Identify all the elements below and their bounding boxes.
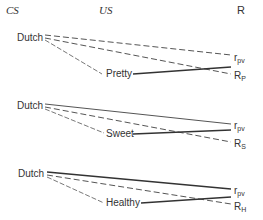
line-dutch-rpv-3 (47, 172, 231, 189)
r-pv-label-2: rpv (234, 121, 245, 132)
us-label-pretty: Pretty (106, 69, 132, 79)
cs-label-1: Dutch (17, 33, 43, 43)
r-s-label: RS (234, 139, 246, 150)
line-dutch-rpv-2 (45, 104, 231, 124)
cs-label-2: Dutch (17, 101, 43, 111)
conditioning-diagram: CS US R Dutch Pretty rpv RP Dutch Sweet (0, 0, 263, 220)
line-sweet-r (133, 130, 231, 134)
line-dutch-healthy (47, 177, 104, 203)
r-h-label: RH (234, 202, 246, 213)
line-dutch-rpv-1 (45, 35, 231, 55)
us-label-healthy: Healthy (106, 198, 140, 208)
line-pretty-r (133, 67, 231, 74)
cs-label-3: Dutch (18, 169, 44, 179)
line-dutch-pretty (45, 40, 102, 74)
r-pv-label-1: rpv (234, 53, 245, 64)
r-p-label: RP (234, 71, 246, 82)
r-pv-label-3: rpv (234, 186, 245, 197)
line-dutch-rs (45, 107, 231, 142)
us-label-sweet: Sweet (106, 129, 134, 139)
